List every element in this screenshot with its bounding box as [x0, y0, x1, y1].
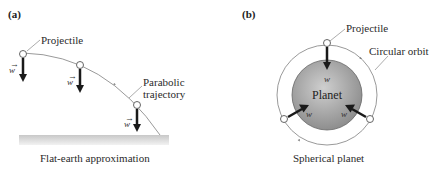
orbit-leader-line [375, 56, 388, 70]
projectile-left [281, 116, 288, 123]
projectile-leader-line-b [330, 29, 345, 41]
vector-arrow-2-icon: → [68, 71, 77, 81]
caption-b: Spherical planet [293, 152, 364, 164]
vector-arrow-1-icon: → [10, 59, 19, 69]
projectile-3 [134, 102, 141, 109]
weight-symbol-right: w [341, 109, 347, 119]
vector-arrow-3-icon: → [125, 113, 134, 123]
weight-symbol-top: w [324, 74, 330, 84]
trajectory-leader-line [129, 86, 142, 98]
ground [19, 135, 169, 145]
weight-arrowhead-3-icon [133, 124, 141, 132]
projectile-top [324, 40, 331, 47]
trajectory-label-line1: Parabolic [143, 76, 185, 88]
diagram-canvas: (a) Projectile Parabolic trajectory w → … [0, 0, 435, 173]
projectile-2 [77, 62, 84, 69]
weight-symbol-left: w [306, 109, 312, 119]
panel-b-label: (b) [242, 8, 256, 21]
caption-a: Flat-earth approximation [40, 152, 150, 164]
planet-label: Planet [312, 88, 343, 102]
panel-b: (b) Planet Projectile Circular orbit w w… [242, 8, 429, 164]
parabolic-trajectory [23, 53, 160, 135]
orbit-label: Circular orbit [369, 45, 429, 57]
projectile-leader-line [27, 40, 40, 51]
projectile-label-a: Projectile [41, 34, 83, 46]
orbit-direction-arrow-bottom-icon [298, 139, 300, 142]
projectile-right [367, 116, 374, 123]
trajectory-label-line2: trajectory [143, 88, 186, 100]
projectile-label-b: Projectile [346, 22, 388, 34]
trajectory-direction-arrow-icon [114, 83, 117, 85]
projectile-1 [20, 51, 27, 58]
weight-arrowhead-1-icon [19, 74, 27, 82]
panel-a-label: (a) [8, 8, 21, 21]
weight-arrowhead-2-icon [76, 85, 84, 93]
panel-a: (a) Projectile Parabolic trajectory w → … [8, 8, 186, 164]
